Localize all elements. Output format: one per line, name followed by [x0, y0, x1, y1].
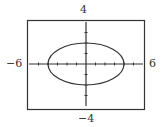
axes	[29, 22, 143, 106]
graph-plot	[0, 0, 164, 127]
